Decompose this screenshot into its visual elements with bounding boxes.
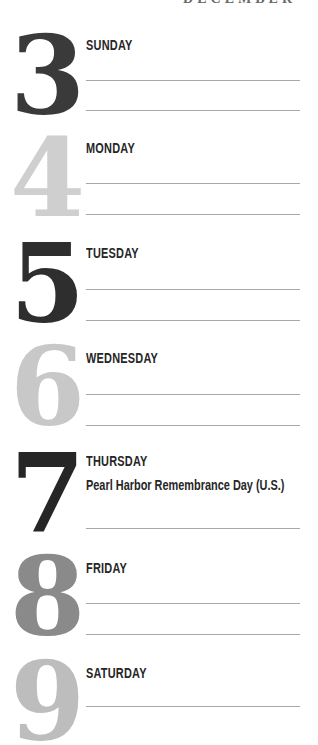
writing-line[interactable] — [86, 706, 300, 707]
writing-line[interactable] — [86, 214, 300, 215]
writing-line[interactable] — [86, 528, 300, 529]
day-saturday: 9 SATURDAY — [0, 655, 318, 715]
day-sunday: 3 SUNDAY — [0, 25, 318, 125]
day-name: WEDNESDAY — [86, 350, 158, 366]
day-name: TUESDAY — [86, 245, 139, 261]
day-name: SUNDAY — [86, 37, 133, 53]
day-name: THURSDAY — [86, 453, 148, 469]
day-number: 7 — [10, 439, 82, 547]
day-number: 8 — [10, 542, 82, 650]
writing-line[interactable] — [86, 183, 300, 184]
day-name: SATURDAY — [86, 665, 147, 681]
month-header: DECEMBER — [183, 0, 296, 7]
day-name: FRIDAY — [86, 560, 127, 576]
writing-line[interactable] — [86, 425, 300, 426]
day-tuesday: 5 TUESDAY — [0, 235, 318, 335]
day-monday: 4 MONDAY — [0, 130, 318, 230]
day-number: 5 — [10, 229, 82, 337]
writing-line[interactable] — [86, 110, 300, 111]
writing-line[interactable] — [86, 80, 300, 81]
writing-line[interactable] — [86, 289, 300, 290]
holiday-note: Pearl Harbor Remembrance Day (U.S.) — [86, 477, 284, 493]
writing-line[interactable] — [86, 320, 300, 321]
day-wednesday: 6 WEDNESDAY — [0, 340, 318, 440]
writing-line[interactable] — [86, 394, 300, 395]
day-number: 3 — [10, 21, 82, 129]
day-thursday: 7 THURSDAY Pearl Harbor Remembrance Day … — [0, 445, 318, 545]
day-name: MONDAY — [86, 140, 135, 156]
day-number: 4 — [10, 124, 82, 232]
writing-line[interactable] — [86, 603, 300, 604]
writing-line[interactable] — [86, 634, 300, 635]
day-friday: 8 FRIDAY — [0, 550, 318, 650]
day-number: 9 — [10, 647, 82, 745]
day-number: 6 — [10, 332, 82, 440]
